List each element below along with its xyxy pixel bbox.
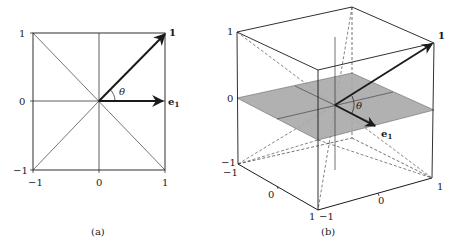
cube-edge <box>237 32 238 164</box>
caption-a: (a) <box>91 226 105 237</box>
vector-e1-label: e1 <box>381 128 392 141</box>
front-left-tick-label: −1 <box>223 167 238 178</box>
y-tick-label: 0 <box>19 96 25 107</box>
vector-e1-label: e1 <box>168 96 179 109</box>
middle-plane <box>237 73 434 140</box>
z-tick-label: 0 <box>227 93 233 104</box>
cube-edge <box>238 164 318 210</box>
x-tick-label: 0 <box>96 177 102 188</box>
angle-label: θ <box>119 86 125 97</box>
front-right-tick-label: 0 <box>378 195 384 206</box>
vector-one-label: 1 <box>438 30 445 41</box>
figure-canvas: θ 1 e1 1 0 −1 −1 0 1 (a) <box>0 0 449 246</box>
vector-one-label: 1 <box>169 27 176 38</box>
y-tick-label: 1 <box>19 28 25 39</box>
panel-b: θ 1 e1 1 0 −1 −1 0 1 −1 0 1 (b) <box>221 7 445 237</box>
z-tick-label: 1 <box>227 26 233 37</box>
panel-a: θ 1 e1 1 0 −1 −1 0 1 (a) <box>13 27 179 237</box>
diagonal-dashed <box>238 140 318 164</box>
x-tick-label: −1 <box>28 177 43 188</box>
angle-label: θ <box>356 100 362 111</box>
y-tick-label: −1 <box>13 165 28 176</box>
angle-arc <box>110 90 115 102</box>
cube-edge <box>318 178 432 210</box>
vector-one-arrow <box>99 34 165 101</box>
x-tick-label: 1 <box>162 177 168 188</box>
caption-b: (b) <box>321 226 335 237</box>
front-left-tick-label: 1 <box>309 211 315 222</box>
diagonal-line <box>33 101 99 170</box>
front-right-tick-label: −1 <box>319 211 334 222</box>
front-right-tick-label: 1 <box>437 181 443 192</box>
hidden-edge <box>352 138 432 178</box>
front-left-tick-label: 0 <box>268 189 274 200</box>
